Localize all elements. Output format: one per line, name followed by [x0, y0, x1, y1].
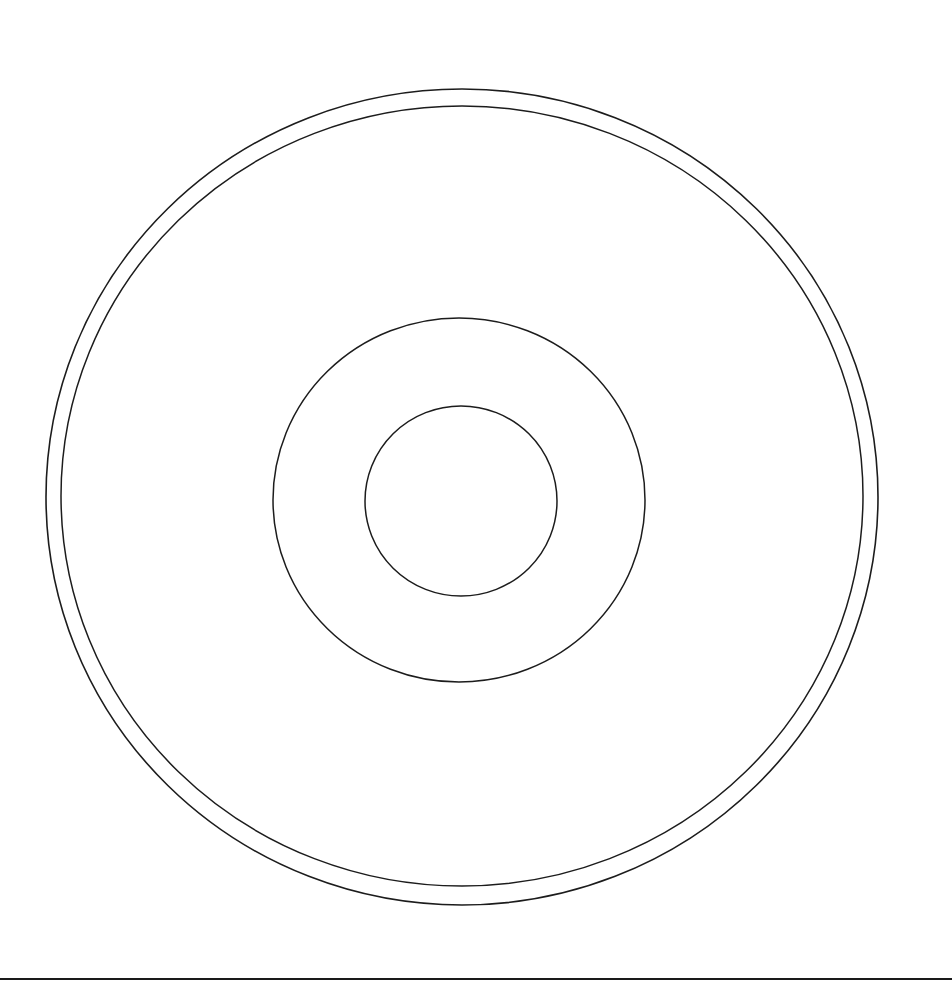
line-drawing-svg	[0, 0, 952, 993]
drawing-canvas	[0, 0, 952, 993]
outer-rim-circle	[46, 89, 878, 905]
center-hole-circle	[365, 406, 557, 596]
mid-hub-circle	[273, 318, 645, 682]
inner-rim-circle	[61, 106, 863, 886]
